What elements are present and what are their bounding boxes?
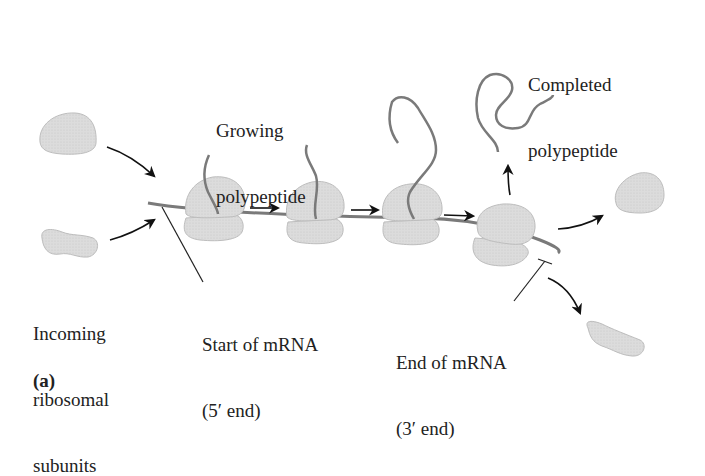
ribosome-icon	[473, 204, 535, 266]
departing-small-subunit	[587, 321, 644, 356]
label-line: (3′ end)	[396, 418, 507, 440]
arrow-icon	[558, 216, 602, 229]
arrow-icon	[444, 215, 473, 216]
arrow-icon	[107, 147, 154, 176]
label-line: Incoming	[33, 323, 109, 345]
label-line: subunits	[33, 455, 109, 476]
label-line: End of mRNA	[396, 352, 507, 374]
label-line: Completed	[528, 74, 618, 96]
arrow-icon	[110, 220, 154, 240]
end-of-mrna-label: End of mRNA (3′ end)	[396, 308, 507, 462]
end-leader-line	[514, 261, 545, 301]
label-line: Start of mRNA	[202, 334, 318, 356]
departing-large-subunit	[615, 173, 664, 213]
label-line: (5′ end)	[202, 400, 318, 422]
arrow-icon	[548, 278, 580, 313]
label-line: polypeptide	[216, 186, 306, 208]
label-line: Growing	[216, 120, 306, 142]
panel-label: (a)	[33, 370, 55, 392]
completed-polypeptide-label: Completed polypeptide	[528, 30, 618, 184]
end-tick	[538, 259, 552, 264]
label-line: ribosomal	[33, 389, 109, 411]
label-line: polypeptide	[528, 140, 618, 162]
incoming-large-subunit	[40, 113, 96, 154]
arrow-icon	[508, 166, 510, 195]
growing-polypeptide-label: Growing polypeptide	[216, 76, 306, 230]
incoming-small-subunit	[42, 230, 98, 258]
start-of-mrna-label: Start of mRNA (5′ end)	[202, 290, 318, 444]
